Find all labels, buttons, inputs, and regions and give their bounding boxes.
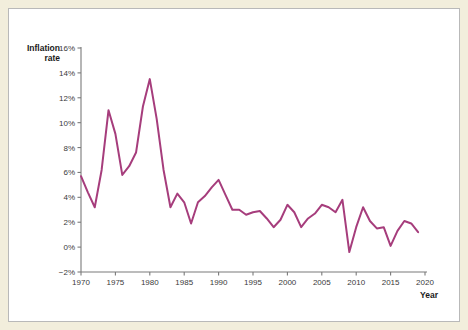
- y-axis: −2%0%2%4%6%8%10%12%14%16%: [59, 44, 81, 277]
- y-tick-label: 2%: [63, 218, 75, 227]
- inflation-line-chart: −2%0%2%4%6%8%10%12%14%16% 19701975198019…: [0, 0, 468, 330]
- x-axis-title: Year: [380, 290, 438, 300]
- y-tick-label: 10%: [59, 119, 75, 128]
- y-tick-label: 4%: [63, 193, 75, 202]
- x-tick-label: 2005: [313, 278, 331, 287]
- y-tick-label: 14%: [59, 69, 75, 78]
- x-tick-label: 1995: [244, 278, 262, 287]
- x-tick-label: 2020: [416, 278, 434, 287]
- x-tick-label: 2015: [382, 278, 400, 287]
- x-tick-label: 1970: [72, 278, 90, 287]
- y-axis-title: Inflation rate: [8, 43, 60, 63]
- x-tick-label: 2010: [347, 278, 365, 287]
- x-tick-label: 1985: [175, 278, 193, 287]
- x-tick-label: 1980: [141, 278, 159, 287]
- y-tick-label: 6%: [63, 168, 75, 177]
- y-tick-label: 12%: [59, 94, 75, 103]
- chart-area: −2%0%2%4%6%8%10%12%14%16% 19701975198019…: [0, 0, 468, 330]
- data-series-group: [81, 79, 418, 252]
- series-line: [81, 79, 418, 252]
- y-tick-label: −2%: [59, 268, 75, 277]
- x-tick-label: 1975: [107, 278, 125, 287]
- x-tick-label: 2000: [279, 278, 297, 287]
- y-tick-label: 0%: [63, 243, 75, 252]
- x-axis: 1970197519801985199019952000200520102015…: [72, 272, 434, 287]
- y-tick-label: 8%: [63, 144, 75, 153]
- y-tick-label: 16%: [59, 44, 75, 53]
- chart-root: −2%0%2%4%6%8%10%12%14%16% 19701975198019…: [0, 0, 468, 330]
- x-tick-label: 1990: [210, 278, 228, 287]
